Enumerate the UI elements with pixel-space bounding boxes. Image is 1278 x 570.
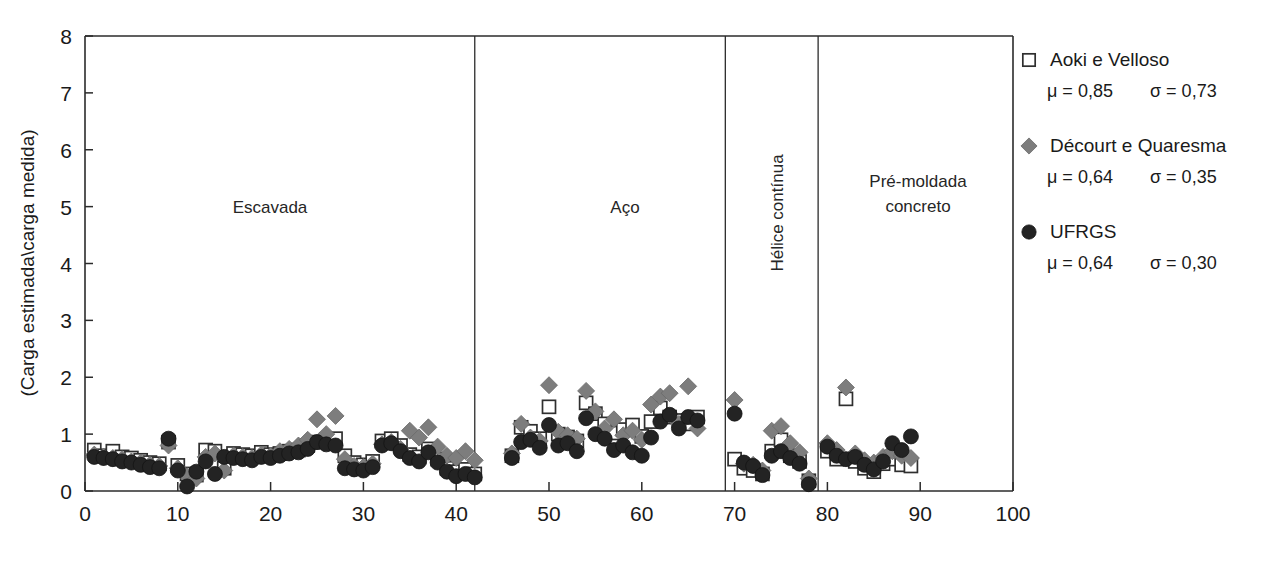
x-tick-label: 10 (166, 502, 189, 525)
marker-circle (792, 456, 807, 471)
panel-label-escavada: Escavada (233, 198, 308, 217)
y-tick-label: 5 (60, 196, 72, 219)
y-tick-label: 8 (60, 25, 72, 48)
x-axis-ticks: 0102030405060708090100 (79, 482, 1030, 525)
y-axis-ticks: 012345678 (60, 25, 93, 503)
marker-circle (542, 418, 557, 433)
legend-entry: UFRGSμ = 0,64σ = 0,30 (1022, 221, 1217, 273)
y-tick-label: 3 (60, 309, 72, 332)
marker-diamond (309, 411, 326, 428)
data-points-layer (86, 377, 920, 494)
y-tick-label: 1 (60, 423, 72, 446)
y-tick-label: 7 (60, 82, 72, 105)
scatter-plot: 012345678 0102030405060708090100 Escavad… (0, 0, 1278, 570)
marker-circle (328, 438, 343, 453)
legend-mu-value: μ = 0,64 (1047, 253, 1113, 273)
marker-circle (198, 454, 213, 469)
legend-label: UFRGS (1050, 221, 1117, 242)
legend-sigma-value: σ = 0,73 (1150, 81, 1217, 101)
y-tick-label: 0 (60, 480, 72, 503)
marker-circle (644, 430, 659, 445)
marker-circle (365, 460, 380, 475)
marker-diamond (680, 378, 697, 395)
marker-circle (152, 461, 167, 476)
x-tick-label: 40 (445, 502, 468, 525)
legend: Aoki e Vellosoμ = 0,85σ = 0,73Décourt e … (1021, 49, 1227, 273)
x-tick-label: 100 (995, 502, 1030, 525)
marker-open-square (1023, 54, 1035, 66)
y-tick-label: 2 (60, 366, 72, 389)
marker-circle (467, 470, 482, 485)
marker-diamond (327, 407, 344, 424)
x-tick-label: 60 (630, 502, 653, 525)
chart-figure: 012345678 0102030405060708090100 Escavad… (0, 0, 1278, 570)
marker-circle (569, 444, 584, 459)
y-tick-label: 4 (60, 253, 72, 276)
marker-circle (170, 463, 185, 478)
marker-circle (161, 431, 176, 446)
x-tick-label: 80 (816, 502, 839, 525)
marker-circle (180, 479, 195, 494)
marker-circle (532, 440, 547, 455)
legend-mu-value: μ = 0,85 (1047, 81, 1113, 101)
legend-label: Aoki e Velloso (1050, 49, 1169, 70)
marker-circle (690, 413, 705, 428)
marker-circle (504, 451, 519, 466)
marker-circle (894, 443, 909, 458)
marker-circle (801, 477, 816, 492)
legend-entry: Décourt e Quaresmaμ = 0,64σ = 0,35 (1021, 135, 1227, 187)
legend-sigma-value: σ = 0,30 (1150, 253, 1217, 273)
marker-diamond (1021, 138, 1037, 154)
marker-circle (207, 466, 222, 481)
marker-diamond (541, 377, 558, 394)
marker-circle (727, 406, 742, 421)
y-tick-label: 6 (60, 139, 72, 162)
marker-circle (876, 454, 891, 469)
marker-circle (1022, 225, 1036, 239)
marker-circle (662, 407, 677, 422)
marker-circle (755, 468, 770, 483)
legend-sigma-value: σ = 0,35 (1150, 167, 1217, 187)
panel-label-premoldada-line2: concreto (885, 197, 950, 216)
x-tick-label: 50 (537, 502, 560, 525)
panel-label-premoldada-line1: Pré-moldada (869, 172, 967, 191)
legend-label: Décourt e Quaresma (1050, 135, 1227, 156)
legend-entry: Aoki e Vellosoμ = 0,85σ = 0,73 (1023, 49, 1217, 101)
marker-circle (579, 411, 594, 426)
marker-circle (903, 429, 918, 444)
x-tick-label: 0 (79, 502, 91, 525)
x-tick-label: 30 (352, 502, 375, 525)
x-tick-label: 20 (259, 502, 282, 525)
x-tick-label: 90 (909, 502, 932, 525)
marker-circle (634, 448, 649, 463)
panel-label-aco: Aço (610, 198, 639, 217)
marker-open-square (543, 400, 556, 413)
y-axis-title: (Carga estimada\carga medida) (17, 129, 38, 396)
panel-label-helice-continua: Hélice contínua (768, 154, 787, 272)
x-tick-label: 70 (723, 502, 746, 525)
legend-mu-value: μ = 0,64 (1047, 167, 1113, 187)
